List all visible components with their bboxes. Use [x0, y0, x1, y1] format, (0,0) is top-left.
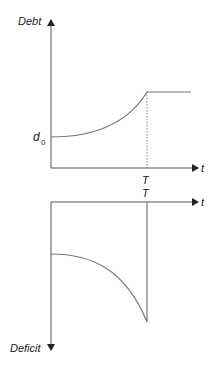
deficit-axis-label: Deficit: [10, 342, 42, 354]
d0-label: d: [33, 130, 40, 144]
debt-axis-label: Debt: [18, 15, 42, 27]
debt-deficit-diagram: Debt t T d 0 T t Deficit: [0, 0, 217, 368]
bottom-t-axis-label: t: [201, 196, 205, 208]
bottom-T-tick-label: T: [142, 187, 150, 199]
deficit-curve: [51, 202, 147, 322]
top-T-tick-label: T: [142, 174, 150, 186]
top-t-axis-label: t: [201, 162, 205, 174]
d0-subscript: 0: [41, 138, 46, 147]
top-chart: Debt t T d 0: [18, 15, 205, 186]
bottom-chart: T t Deficit: [10, 187, 205, 354]
debt-curve: [51, 92, 191, 137]
